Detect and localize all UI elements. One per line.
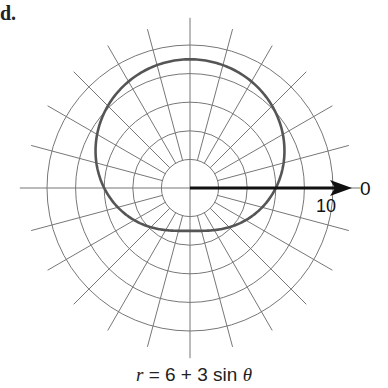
equation-rhs: = 6 + 3 sin: [143, 364, 242, 385]
zero-angle-label: 0: [360, 178, 371, 199]
radius-ten-label: 10: [316, 196, 336, 216]
equation-caption: r = 6 + 3 sin θ: [0, 364, 388, 386]
equation-theta: θ: [243, 364, 252, 385]
polar-graph: 0 10: [0, 0, 388, 388]
polar-axis: [190, 180, 352, 196]
